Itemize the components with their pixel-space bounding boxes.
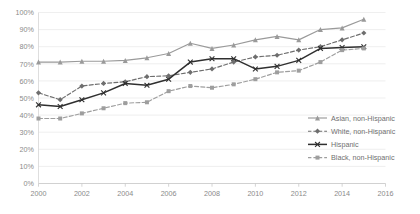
data-point-2012 xyxy=(297,69,301,73)
series-black-non-hispanic xyxy=(37,46,366,120)
data-point-2010 xyxy=(253,54,258,59)
y-tick-label-0: 0% xyxy=(24,179,35,188)
series-line xyxy=(39,48,364,118)
y-tick-label-20: 20% xyxy=(20,145,35,154)
x-tick-label-2010: 2010 xyxy=(247,189,263,198)
x-tick-label-2002: 2002 xyxy=(74,189,90,198)
data-point-2015 xyxy=(361,17,366,22)
y-tick-label-60: 60% xyxy=(20,77,35,86)
y-tick-label-80: 80% xyxy=(20,42,35,51)
x-tick-label-2008: 2008 xyxy=(204,189,220,198)
y-axis-tick-labels: 0%10%20%30%40%50%60%70%80%90%100% xyxy=(16,8,35,188)
series-hispanic xyxy=(36,44,366,109)
data-point-2006 xyxy=(167,89,171,93)
line-chart: 0%10%20%30%40%50%60%70%80%90%100% 200020… xyxy=(0,0,420,214)
data-point-2002 xyxy=(80,111,84,115)
legend-label: Hispanic xyxy=(331,140,359,149)
legend-item-black-non-hispanic[interactable]: Black, non-Hispanic xyxy=(308,153,395,162)
legend-marker xyxy=(315,129,320,134)
data-point-2011 xyxy=(275,70,279,74)
data-point-2012 xyxy=(296,48,301,53)
data-point-2004 xyxy=(123,101,127,105)
y-tick-label-10: 10% xyxy=(20,162,35,171)
legend-item-hispanic[interactable]: Hispanic xyxy=(308,140,359,149)
legend-label: White, non-Hispanic xyxy=(331,127,396,136)
data-point-2015 xyxy=(362,46,366,50)
data-series-group xyxy=(36,17,367,121)
data-point-2001 xyxy=(58,117,62,121)
y-tick-label-70: 70% xyxy=(20,60,35,69)
y-tick-label-40: 40% xyxy=(20,111,35,120)
data-point-2000 xyxy=(36,90,41,95)
chart-canvas: 0%10%20%30%40%50%60%70%80%90%100% 200020… xyxy=(0,0,420,214)
data-point-2005 xyxy=(144,74,149,79)
series-white-non-hispanic xyxy=(36,30,367,102)
data-point-2015 xyxy=(361,30,366,35)
x-axis-tick-labels: 200020022004200620082010201220142016 xyxy=(31,189,394,198)
legend-item-white-non-hispanic[interactable]: White, non-Hispanic xyxy=(308,127,396,136)
x-tick-label-2006: 2006 xyxy=(161,189,177,198)
series-line xyxy=(39,47,364,107)
x-tick-label-2012: 2012 xyxy=(291,189,307,198)
data-point-2014 xyxy=(340,48,344,52)
y-tick-label-100: 100% xyxy=(16,8,35,17)
chart-legend: Asian, non-HispanicWhite, non-HispanicHi… xyxy=(308,114,396,163)
data-point-2007 xyxy=(188,70,193,75)
data-point-2008 xyxy=(209,66,214,71)
data-point-2003 xyxy=(101,81,106,86)
data-point-2011 xyxy=(274,53,279,58)
data-point-2000 xyxy=(37,117,41,121)
x-tick-label-2014: 2014 xyxy=(334,189,350,198)
y-tick-label-90: 90% xyxy=(20,25,35,34)
data-point-2010 xyxy=(253,77,257,81)
legend-marker xyxy=(316,156,320,160)
data-point-2003 xyxy=(102,106,106,110)
data-point-2005 xyxy=(145,100,149,104)
series-asian-non-hispanic xyxy=(36,17,366,65)
y-tick-label-50: 50% xyxy=(20,94,35,103)
y-tick-label-30: 30% xyxy=(20,128,35,137)
x-tick-label-2000: 2000 xyxy=(31,189,47,198)
series-line xyxy=(39,33,364,100)
legend-label: Asian, non-Hispanic xyxy=(331,114,395,123)
series-line xyxy=(39,19,364,62)
data-point-2013 xyxy=(318,60,322,64)
x-tick-label-2016: 2016 xyxy=(378,189,394,198)
data-point-2009 xyxy=(232,82,236,86)
data-point-2007 xyxy=(188,84,192,88)
data-point-2008 xyxy=(210,86,214,90)
legend-label: Black, non-Hispanic xyxy=(331,153,395,162)
data-point-2014 xyxy=(340,37,345,42)
x-tick-label-2004: 2004 xyxy=(117,189,133,198)
